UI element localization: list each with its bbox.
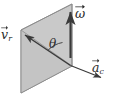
v-symbol: v bbox=[1, 29, 8, 42]
a-symbol: a bbox=[92, 62, 99, 75]
a-subscript: c bbox=[100, 67, 104, 76]
omega-vector-notation: ω bbox=[75, 8, 85, 21]
ac-vector-notation: a bbox=[92, 62, 99, 75]
vector-arrow-icon bbox=[75, 4, 85, 9]
vector-arrow-icon bbox=[1, 25, 8, 30]
v-subscript: r bbox=[8, 34, 12, 43]
vector-arrow-icon bbox=[92, 58, 99, 63]
vr-vector-notation: v bbox=[1, 29, 8, 42]
vector-diagram-canvas bbox=[0, 0, 114, 101]
ac-label: a c bbox=[92, 62, 104, 75]
omega-label: ω bbox=[75, 8, 85, 21]
vector-diagram-figure: ω v r a c θ bbox=[0, 0, 114, 101]
omega-symbol: ω bbox=[75, 8, 85, 21]
vr-label: v r bbox=[1, 29, 12, 42]
theta-label: θ bbox=[49, 38, 56, 50]
